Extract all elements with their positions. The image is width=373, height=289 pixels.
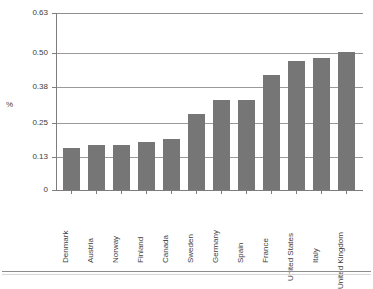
x-axis-tick-mark bbox=[246, 190, 247, 194]
x-axis-tick-mark bbox=[321, 190, 322, 194]
bar bbox=[63, 148, 80, 190]
bar bbox=[88, 145, 105, 190]
plot-area bbox=[57, 13, 363, 190]
bar bbox=[338, 52, 355, 190]
x-axis-tick-mark bbox=[221, 190, 222, 194]
gridline bbox=[57, 53, 363, 54]
bar bbox=[263, 75, 280, 190]
x-axis-category-label: Austria bbox=[87, 238, 95, 263]
x-axis-category-label: Finland bbox=[137, 237, 145, 263]
bar bbox=[163, 139, 180, 190]
x-axis-tick-mark bbox=[196, 190, 197, 194]
footer-divider bbox=[2, 271, 371, 272]
footer-divider-shadow bbox=[2, 274, 371, 275]
x-axis-tick-mark bbox=[296, 190, 297, 194]
bar bbox=[213, 100, 230, 190]
bar bbox=[188, 114, 205, 190]
x-axis-tick-mark bbox=[71, 190, 72, 194]
bar bbox=[238, 100, 255, 190]
y-axis-tick-label: 0.38 bbox=[20, 83, 48, 91]
x-axis-tick-mark bbox=[271, 190, 272, 194]
x-axis-category-label: Denmark bbox=[62, 231, 70, 263]
gridline bbox=[57, 13, 363, 14]
x-axis-tick-mark bbox=[121, 190, 122, 194]
y-axis-tick-label: 0.13 bbox=[20, 153, 48, 161]
bar bbox=[138, 142, 155, 190]
x-axis-category-label: Sweden bbox=[187, 234, 195, 263]
x-axis-tick-mark bbox=[171, 190, 172, 194]
y-axis-tick-label: 0 bbox=[20, 186, 48, 194]
y-axis-tick-label: 0.25 bbox=[20, 119, 48, 127]
bar bbox=[313, 58, 330, 190]
x-axis-category-label: Spain bbox=[237, 243, 245, 263]
x-axis-tick-mark bbox=[346, 190, 347, 194]
bar bbox=[288, 61, 305, 190]
x-axis-category-label: Norway bbox=[112, 236, 120, 263]
x-axis-category-label: France bbox=[262, 238, 270, 263]
x-axis-line bbox=[56, 190, 363, 191]
bar bbox=[113, 145, 130, 190]
x-axis-category-label: United Kingdom bbox=[337, 232, 345, 289]
x-axis-category-label: Canada bbox=[162, 235, 170, 263]
x-axis-category-label: Germany bbox=[212, 230, 220, 263]
x-axis-tick-mark bbox=[146, 190, 147, 194]
y-axis-tick-label: 0.63 bbox=[20, 9, 48, 17]
y-axis-tick-label: 0.50 bbox=[20, 49, 48, 57]
x-axis-tick-mark bbox=[96, 190, 97, 194]
x-axis-category-label: Italy bbox=[312, 248, 320, 263]
y-axis-title: % bbox=[6, 101, 13, 109]
